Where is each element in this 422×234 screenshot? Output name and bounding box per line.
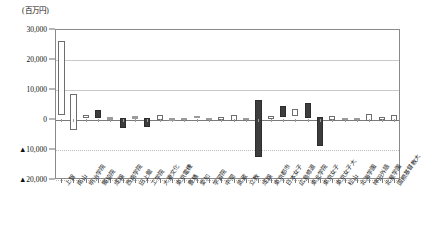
bar (255, 100, 262, 157)
zero-tick-mark (123, 119, 124, 122)
zero-tick-mark (172, 119, 173, 122)
y-axis-unit-caption: (百万円) (22, 4, 49, 15)
zero-tick-mark (345, 119, 346, 122)
zero-tick-mark (283, 119, 284, 122)
bar (70, 94, 77, 130)
y-tick-label: 30,000 (26, 25, 47, 34)
zero-tick-mark (271, 119, 272, 122)
zero-tick-mark (73, 119, 74, 122)
zero-tick-mark (209, 119, 210, 122)
zero-tick-mark (147, 119, 148, 122)
y-tick-label: 20,000 (26, 55, 47, 64)
zero-tick-mark (197, 119, 198, 122)
zero-tick-mark (382, 119, 383, 122)
zero-tick-mark (258, 119, 259, 122)
zero-tick-mark (160, 119, 161, 122)
zero-tick-mark (135, 119, 136, 122)
zero-tick-mark (357, 119, 358, 122)
zero-tick-mark (394, 119, 395, 122)
zero-tick-mark (308, 119, 309, 122)
zero-tick-mark (221, 119, 222, 122)
bar (95, 110, 101, 118)
bar (58, 41, 65, 115)
bar (280, 106, 286, 117)
zero-tick-mark (246, 119, 247, 122)
bar (83, 115, 89, 118)
bar-series-layer (55, 29, 400, 179)
zero-tick-mark (332, 119, 333, 122)
zero-tick-mark (295, 119, 296, 122)
zero-tick-mark (86, 119, 87, 122)
zero-tick-mark (98, 119, 99, 122)
zero-tick-mark (369, 119, 370, 122)
bar (305, 103, 311, 117)
zero-tick-mark (110, 119, 111, 122)
y-tick-label: 10,000 (26, 85, 47, 94)
zero-baseline-ticks (55, 119, 400, 123)
y-tick-label: 0 (43, 115, 47, 124)
zero-tick-mark (184, 119, 185, 122)
x-axis-category-labels: 上智南山明治学院獨協院成蹊西南学院田上館工学院大妻文化東京電機豊橋愛知学習院中間… (55, 183, 400, 234)
y-tick-label: ▲20,000 (19, 175, 47, 184)
zero-tick-mark (61, 119, 62, 122)
zero-tick-mark (234, 119, 235, 122)
zero-tick-mark (320, 119, 321, 122)
y-tick-label: ▲10,000 (19, 145, 47, 154)
bar (292, 109, 298, 116)
y-axis: 30,00020,00010,0000▲10,000▲20,000 (0, 29, 53, 179)
